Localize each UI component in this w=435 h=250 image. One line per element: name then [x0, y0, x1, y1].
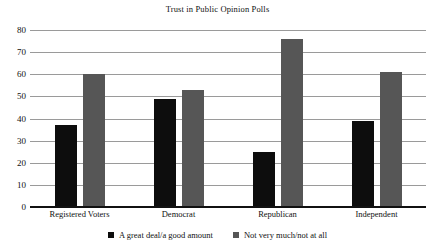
x-axis-tick-label: Democrat — [129, 209, 228, 219]
y-axis-tick-label: 20 — [0, 158, 26, 167]
y-axis-tick-label: 60 — [0, 70, 26, 79]
bar[interactable] — [281, 39, 303, 207]
y-axis-labels: 01020304050607080 — [0, 30, 26, 207]
legend-item[interactable]: A great deal/a good amount — [108, 230, 213, 240]
bar[interactable] — [380, 72, 402, 207]
bar-pair — [352, 30, 402, 207]
bar-groups — [30, 30, 426, 207]
bar[interactable] — [253, 152, 275, 207]
legend-swatch-icon — [108, 232, 114, 238]
bar[interactable] — [55, 125, 77, 207]
chart-title: Trust in Public Opinion Polls — [0, 4, 435, 14]
plot-area — [30, 30, 426, 207]
x-axis-tick-label: Independent — [327, 209, 426, 219]
bar[interactable] — [352, 121, 374, 207]
y-axis-tick-label: 30 — [0, 136, 26, 145]
y-axis-tick-label: 80 — [0, 26, 26, 35]
y-axis-tick-label: 40 — [0, 114, 26, 123]
bar-group — [327, 30, 426, 207]
bar-pair — [154, 30, 204, 207]
x-axis-labels: Registered VotersDemocratRepublicanIndep… — [30, 209, 426, 219]
bar-chart: Trust in Public Opinion Polls 0102030405… — [0, 0, 435, 250]
bar-group — [30, 30, 129, 207]
y-axis-tick-label: 50 — [0, 92, 26, 101]
bar[interactable] — [154, 99, 176, 207]
bar-pair — [253, 30, 303, 207]
bar-group — [228, 30, 327, 207]
legend-item[interactable]: Not very much/not at all — [233, 230, 327, 240]
bar-pair — [55, 30, 105, 207]
x-axis-tick-label: Registered Voters — [30, 209, 129, 219]
legend-item-label: A great deal/a good amount — [119, 230, 213, 240]
x-axis-tick-label: Republican — [228, 209, 327, 219]
bar-group — [129, 30, 228, 207]
bar[interactable] — [182, 90, 204, 207]
y-axis-tick-label: 70 — [0, 48, 26, 57]
y-axis-tick-label: 10 — [0, 180, 26, 189]
x-axis-line — [30, 206, 426, 208]
chart-legend: A great deal/a good amountNot very much/… — [0, 230, 435, 240]
legend-item-label: Not very much/not at all — [244, 230, 327, 240]
bar[interactable] — [83, 74, 105, 207]
legend-swatch-icon — [233, 232, 239, 238]
y-axis-tick-label: 0 — [0, 203, 26, 212]
